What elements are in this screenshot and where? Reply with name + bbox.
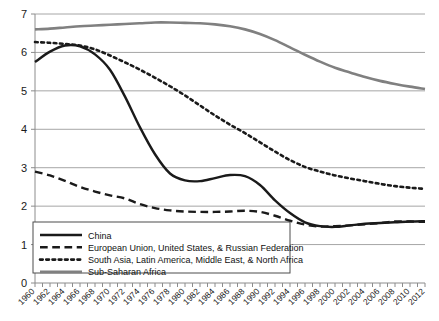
y-tick-label: 6 (21, 46, 27, 58)
legend-label-3: South Asia, Latin America, Middle East, … (88, 255, 303, 265)
legend-label-2: European Union, United States, & Russian… (88, 243, 304, 253)
y-tick-label: 7 (21, 8, 27, 20)
y-tick-labels: 01234567 (21, 8, 27, 289)
y-tick-label: 3 (21, 162, 27, 174)
x-tick-marks (35, 283, 425, 287)
chart-legend: ChinaEuropean Union, United States, & Ru… (33, 222, 304, 277)
chart-canvas: 01234567 1960196219641966196819701972197… (0, 0, 439, 321)
legend-label-4: Sub-Saharan Africa (88, 267, 166, 277)
x-tick-labels: 1960196219641966196819701972197419761978… (16, 286, 427, 307)
y-tick-label: 5 (21, 85, 27, 97)
legend-label-1: China (88, 231, 112, 241)
fertility-rate-line-chart: 01234567 1960196219641966196819701972197… (0, 0, 439, 321)
y-tick-label: 2 (21, 200, 27, 212)
y-tick-label: 0 (21, 277, 27, 289)
x-tick-label: 2012 (406, 286, 427, 307)
y-tick-label: 4 (21, 123, 27, 135)
y-tick-label: 1 (21, 239, 27, 251)
